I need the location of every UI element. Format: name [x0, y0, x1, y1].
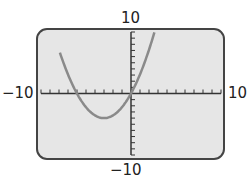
- graph-screen: [0, 0, 252, 189]
